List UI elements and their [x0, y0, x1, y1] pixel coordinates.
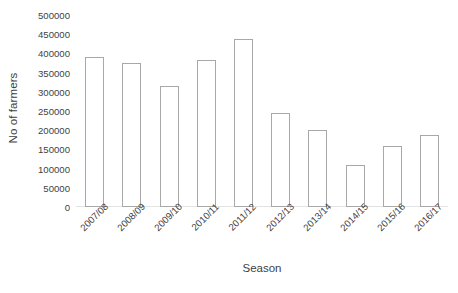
y-axis-tick-label: 300000	[38, 86, 70, 97]
x-axis-tick-slot: 2016/17	[411, 207, 448, 259]
x-axis-tick-slot: 2015/16	[374, 207, 411, 259]
bar-slot	[188, 15, 225, 207]
y-axis-tick-label: 250000	[38, 106, 70, 117]
bar-slot	[150, 15, 187, 207]
bar[interactable]	[383, 146, 402, 207]
bar-slot	[299, 15, 336, 207]
y-axis-tick-label: 100000	[38, 163, 70, 174]
bar-slot	[411, 15, 448, 207]
y-axis-tick-label: 400000	[38, 48, 70, 59]
x-axis-tick-slot: 2013/14	[299, 207, 336, 259]
y-axis-tick-label: 200000	[38, 125, 70, 136]
bar-slot	[225, 15, 262, 207]
y-axis-tick-label: 50000	[43, 182, 70, 193]
y-axis-tick-labels: 0500001000001500002000002500003000003500…	[26, 8, 74, 207]
y-axis-title: No of farmers	[0, 0, 26, 215]
y-axis-tick-label: 350000	[38, 67, 70, 78]
bar[interactable]	[271, 113, 290, 207]
y-axis-tick-label: 500000	[38, 10, 70, 21]
bar[interactable]	[234, 39, 253, 207]
plot-area	[76, 15, 448, 207]
bar[interactable]	[160, 86, 179, 207]
y-axis-tick-label: 450000	[38, 29, 70, 40]
x-axis-tick-slot: 2011/12	[225, 207, 262, 259]
bar-series	[76, 15, 448, 207]
bar-chart: No of farmers 05000010000015000020000025…	[0, 0, 458, 293]
y-axis-title-label: No of farmers	[7, 72, 19, 143]
bar-slot	[374, 15, 411, 207]
x-axis-tick-slot: 2010/11	[188, 207, 225, 259]
bar[interactable]	[197, 60, 216, 207]
bar[interactable]	[308, 130, 327, 207]
x-axis-tick-slot: 2012/13	[262, 207, 299, 259]
bar[interactable]	[85, 57, 104, 207]
x-axis-tick-slot: 2007/08	[76, 207, 113, 259]
bar-slot	[76, 15, 113, 207]
bar-slot	[336, 15, 373, 207]
x-axis-tick-labels: 2007/082008/092009/102010/112011/122012/…	[76, 207, 448, 259]
y-axis-tick-label: 150000	[38, 144, 70, 155]
bar-slot	[262, 15, 299, 207]
y-axis-tick-label: 0	[65, 202, 70, 213]
x-axis-tick-slot: 2009/10	[150, 207, 187, 259]
bar-slot	[113, 15, 150, 207]
bar[interactable]	[122, 63, 141, 207]
bar[interactable]	[420, 135, 439, 207]
x-axis-tick-slot: 2008/09	[113, 207, 150, 259]
x-axis-tick-slot: 2014/15	[336, 207, 373, 259]
x-axis-title: Season	[76, 262, 448, 274]
